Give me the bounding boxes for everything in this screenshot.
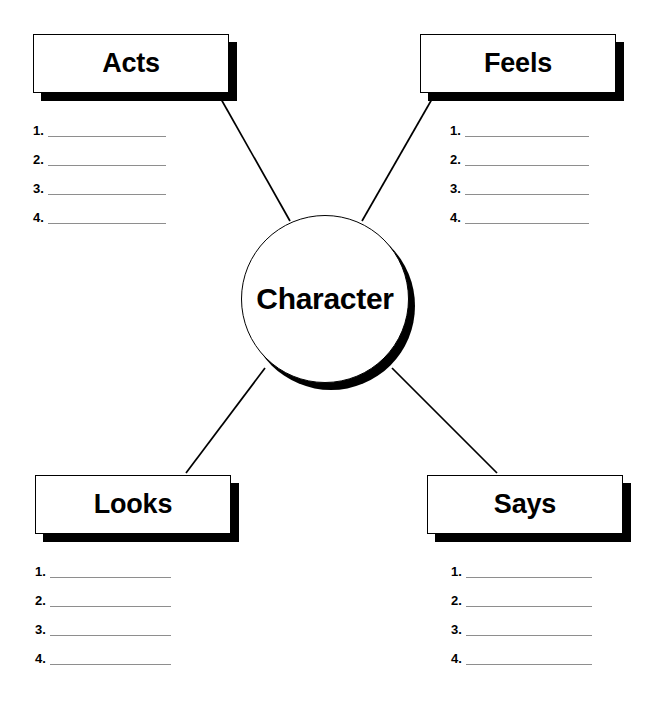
feels-answer-number-2: 2. — [450, 153, 465, 169]
says-answer-number-3: 3. — [451, 623, 466, 639]
character-graphic-organizer: Character Acts 1. 2. 3. — [0, 0, 668, 706]
quadrant-looks: Looks 1. 2. 3. 4. — [35, 475, 231, 668]
quadrant-acts: Acts 1. 2. 3. 4. — [33, 34, 229, 227]
acts-answer-lines: 1. 2. 3. 4. — [33, 111, 229, 227]
looks-answer-row-1[interactable]: 1. — [35, 552, 231, 581]
says-answer-row-2[interactable]: 2. — [451, 581, 623, 610]
feels-answer-number-4: 4. — [450, 211, 465, 227]
acts-answer-number-1: 1. — [33, 124, 48, 140]
acts-header-box-face: Acts — [33, 34, 229, 93]
looks-answer-number-1: 1. — [35, 565, 50, 581]
center-node-label: Character — [256, 284, 393, 314]
says-answer-rule-4[interactable] — [466, 664, 592, 665]
looks-answer-rule-1[interactable] — [50, 577, 171, 578]
acts-answer-rule-4[interactable] — [48, 223, 166, 224]
says-header-title: Says — [494, 491, 556, 518]
feels-answer-row-3[interactable]: 3. — [450, 169, 616, 198]
connector-acts-to-center — [221, 99, 290, 221]
acts-answer-row-3[interactable]: 3. — [33, 169, 229, 198]
looks-header-box: Looks — [35, 475, 231, 534]
looks-answer-number-2: 2. — [35, 594, 50, 610]
says-header-box-face: Says — [427, 475, 623, 534]
acts-header-title: Acts — [102, 50, 160, 77]
says-answer-number-1: 1. — [451, 565, 466, 581]
acts-answer-row-4[interactable]: 4. — [33, 198, 229, 227]
says-header-box: Says — [427, 475, 623, 534]
looks-answer-number-3: 3. — [35, 623, 50, 639]
quadrant-says: Says 1. 2. 3. 4. — [427, 475, 623, 668]
quadrant-feels: Feels 1. 2. 3. 4. — [420, 34, 616, 227]
says-answer-row-4[interactable]: 4. — [451, 639, 623, 668]
looks-answer-lines: 1. 2. 3. 4. — [35, 552, 231, 668]
looks-header-title: Looks — [94, 491, 173, 518]
center-node-face: Character — [241, 215, 409, 383]
acts-answer-rule-2[interactable] — [48, 165, 166, 166]
looks-header-box-face: Looks — [35, 475, 231, 534]
feels-answer-lines: 1. 2. 3. 4. — [420, 111, 616, 227]
looks-answer-row-3[interactable]: 3. — [35, 610, 231, 639]
feels-answer-rule-1[interactable] — [465, 136, 589, 137]
acts-answer-rule-1[interactable] — [48, 136, 166, 137]
acts-answer-number-4: 4. — [33, 211, 48, 227]
says-answer-lines: 1. 2. 3. 4. — [427, 552, 623, 668]
looks-answer-rule-4[interactable] — [50, 664, 171, 665]
acts-answer-number-3: 3. — [33, 182, 48, 198]
acts-answer-rule-3[interactable] — [48, 194, 166, 195]
acts-answer-row-1[interactable]: 1. — [33, 111, 229, 140]
looks-answer-rule-2[interactable] — [50, 606, 171, 607]
feels-answer-row-1[interactable]: 1. — [450, 111, 616, 140]
acts-header-box: Acts — [33, 34, 229, 93]
feels-answer-number-3: 3. — [450, 182, 465, 198]
center-node-character: Character — [241, 215, 417, 391]
looks-answer-row-2[interactable]: 2. — [35, 581, 231, 610]
feels-answer-rule-3[interactable] — [465, 194, 589, 195]
feels-header-title: Feels — [484, 50, 552, 77]
feels-answer-rule-2[interactable] — [465, 165, 589, 166]
feels-answer-row-4[interactable]: 4. — [450, 198, 616, 227]
looks-answer-number-4: 4. — [35, 652, 50, 668]
feels-answer-row-2[interactable]: 2. — [450, 140, 616, 169]
says-answer-rule-3[interactable] — [466, 635, 592, 636]
feels-answer-rule-4[interactable] — [465, 223, 589, 224]
says-answer-row-1[interactable]: 1. — [451, 552, 623, 581]
feels-header-box-face: Feels — [420, 34, 616, 93]
says-answer-rule-2[interactable] — [466, 606, 592, 607]
feels-header-box: Feels — [420, 34, 616, 93]
acts-answer-number-2: 2. — [33, 153, 48, 169]
says-answer-number-4: 4. — [451, 652, 466, 668]
looks-answer-row-4[interactable]: 4. — [35, 639, 231, 668]
looks-answer-rule-3[interactable] — [50, 635, 171, 636]
says-answer-row-3[interactable]: 3. — [451, 610, 623, 639]
says-answer-number-2: 2. — [451, 594, 466, 610]
feels-answer-number-1: 1. — [450, 124, 465, 140]
says-answer-rule-1[interactable] — [466, 577, 592, 578]
acts-answer-row-2[interactable]: 2. — [33, 140, 229, 169]
